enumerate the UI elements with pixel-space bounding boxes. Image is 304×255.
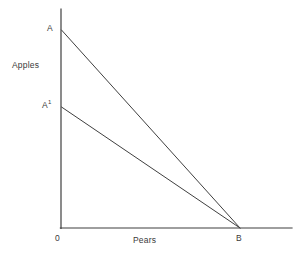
x-axis-label: Pears xyxy=(133,235,156,245)
point-a-prime-superscript: 1 xyxy=(48,99,52,105)
frontier-line-a1-b xyxy=(62,107,241,228)
point-a-label: A xyxy=(47,23,53,33)
y-axis-label: Apples xyxy=(12,60,39,70)
point-a-prime-label: A1 xyxy=(42,100,51,110)
frontier-lines-group xyxy=(62,30,241,228)
origin-label: 0 xyxy=(55,233,60,243)
point-b-label: B xyxy=(236,233,242,243)
axes-group xyxy=(60,9,292,229)
frontier-line-a-b xyxy=(62,30,241,228)
ppf-diagram: Apples Pears A A1 0 B xyxy=(0,0,304,255)
diagram-canvas xyxy=(0,0,304,255)
